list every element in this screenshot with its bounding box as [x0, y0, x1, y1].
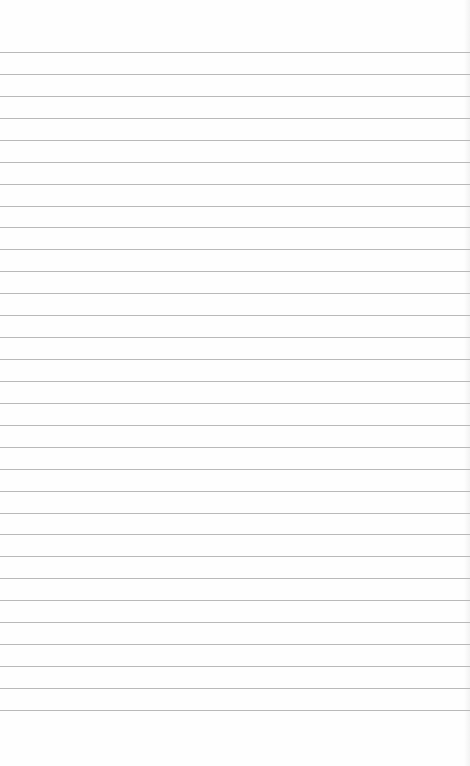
ruled-line — [0, 96, 470, 97]
ruled-line — [0, 534, 470, 535]
ruled-line — [0, 403, 470, 404]
ruled-line — [0, 688, 470, 689]
ruled-line — [0, 425, 470, 426]
ruled-line — [0, 578, 470, 579]
ruled-line — [0, 74, 470, 75]
ruled-line — [0, 469, 470, 470]
paper-edge-shadow — [464, 0, 470, 766]
ruled-line — [0, 206, 470, 207]
ruled-line — [0, 600, 470, 601]
ruled-line — [0, 359, 470, 360]
ruled-line — [0, 315, 470, 316]
ruled-line — [0, 644, 470, 645]
ruled-line — [0, 622, 470, 623]
ruled-line — [0, 293, 470, 294]
ruled-line — [0, 118, 470, 119]
ruled-line — [0, 227, 470, 228]
ruled-line — [0, 381, 470, 382]
ruled-line — [0, 447, 470, 448]
ruled-line — [0, 710, 470, 711]
lined-paper — [0, 0, 470, 766]
ruled-line — [0, 666, 470, 667]
ruled-line — [0, 184, 470, 185]
ruled-line — [0, 491, 470, 492]
ruled-line — [0, 337, 470, 338]
ruled-line — [0, 556, 470, 557]
ruled-line — [0, 162, 470, 163]
ruled-line — [0, 52, 470, 53]
ruled-line — [0, 140, 470, 141]
ruled-line — [0, 513, 470, 514]
ruled-line — [0, 271, 470, 272]
ruled-line — [0, 249, 470, 250]
